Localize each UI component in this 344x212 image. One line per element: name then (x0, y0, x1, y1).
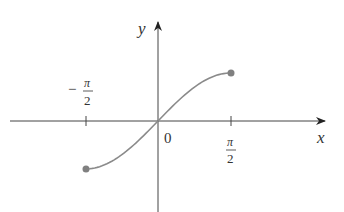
neg-half-pi-denominator: 2 (84, 93, 91, 108)
x-axis-label: x (316, 128, 325, 147)
neg-sign: − (68, 81, 76, 97)
origin-label: 0 (164, 130, 172, 146)
half-pi-denominator: 2 (227, 151, 234, 166)
half-pi-numerator: π (227, 135, 234, 149)
y-axis-label: y (136, 19, 146, 38)
neg-half-pi-numerator: π (84, 76, 91, 90)
right-endpoint-dot (228, 70, 235, 77)
left-endpoint-dot (83, 166, 90, 173)
sine-plot: y x 0 − π 2 π 2 (0, 0, 344, 212)
